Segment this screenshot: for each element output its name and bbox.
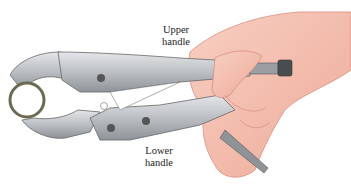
pliers-figure: Upper handle Lower handle [0,0,351,188]
upper-handle-label: Upper handle [150,24,202,48]
label-line: Lower [133,145,185,157]
label-line: handle [133,157,185,169]
pipe [10,83,44,117]
hand [189,12,351,177]
screw-knob [278,60,292,76]
rivet [107,124,115,132]
lower-handle-label: Lower handle [133,145,185,169]
label-line: Upper [150,24,202,36]
label-line: handle [150,36,202,48]
release-hole [101,103,108,110]
rivet [142,117,150,125]
rivet [97,74,105,82]
